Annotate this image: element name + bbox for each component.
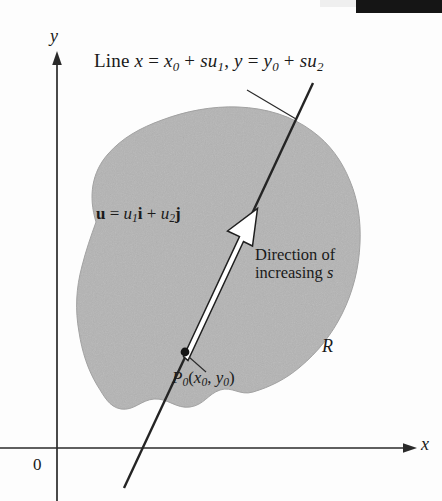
line-equation-comma: , (224, 50, 234, 71)
line-equation-y0-base: y (264, 50, 273, 71)
line-equation-eq1: = (143, 50, 164, 71)
point-P0-marker (181, 348, 190, 357)
origin-label: 0 (33, 455, 42, 474)
line-equation-var-x: x (135, 50, 144, 71)
diagram-svg (0, 0, 442, 501)
point-close-paren: ) (229, 368, 235, 387)
figure-canvas: Line x = x0 + su1, y = y0 + su2 u = u1i … (0, 0, 442, 501)
line-equation-u2-sub: 2 (317, 59, 324, 74)
direction-line-2-var: s (327, 263, 333, 282)
x-axis (0, 443, 417, 453)
line-equation-u2-base: u (307, 50, 317, 71)
line-equation-s1: s (200, 50, 208, 71)
scan-edge-artifact (356, 0, 442, 13)
vector-plus: + (143, 204, 161, 223)
direction-line-2: increasing s (255, 264, 335, 282)
x-axis-label: x (421, 434, 429, 454)
line-equation-x0-base: x (164, 50, 173, 71)
line-equation-y0-sub: 0 (272, 59, 279, 74)
line-equation-var-y: y (234, 50, 243, 71)
vector-eq: = (105, 204, 123, 223)
direction-annotation: Direction of increasing s (255, 246, 335, 283)
vector-u2-base: u (161, 204, 170, 223)
line-equation-prefix: Line (94, 50, 135, 71)
direction-line-1: Direction of (255, 246, 335, 264)
line-equation-plus2: + (279, 50, 300, 71)
y-axis (52, 51, 62, 501)
scan-edge-highlight (320, 0, 356, 7)
line-equation-plus1: + (179, 50, 200, 71)
point-P0-label: P0(x0, y0) (172, 368, 235, 390)
vector-equation-label: u = u1i + u2j (96, 204, 181, 226)
line-equation-eq2: = (243, 50, 264, 71)
line-equation-label: Line x = x0 + su1, y = y0 + su2 (94, 50, 324, 74)
vector-j-bold: j (175, 204, 181, 223)
y-axis-label: y (50, 26, 58, 46)
point-p-base: P (172, 368, 182, 387)
point-comma: , (207, 368, 216, 387)
vector-u1-base: u (124, 204, 133, 223)
region-R-label: R (322, 336, 333, 356)
direction-line-2-prefix: increasing (255, 263, 327, 282)
